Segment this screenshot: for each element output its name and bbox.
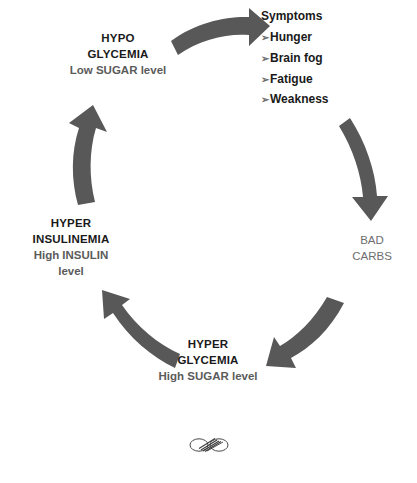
node-hypoglycemia: HYPO GLYCEMIA Low SUGAR level bbox=[38, 31, 198, 79]
node-hyperinsulinemia-line1: HYPER bbox=[6, 216, 136, 232]
node-hypoglycemia-line1: HYPO bbox=[38, 31, 198, 47]
bullet-arrow-icon: ➢ bbox=[261, 70, 269, 87]
node-hyperinsulinemia-line2: INSULINEMIA bbox=[6, 232, 136, 248]
arrow-hyperinsulinemia-to-hypoglycemia-icon bbox=[69, 105, 107, 205]
node-bad-carbs: BAD CARBS bbox=[333, 233, 411, 265]
node-hyperinsulinemia: HYPER INSULINEMIA High INSULIN level bbox=[6, 216, 136, 279]
node-hyperinsulinemia-sub2: level bbox=[6, 264, 136, 280]
symptoms-list: ➢ Hunger ➢ Brain fog ➢ Fatigue ➢ Weaknes… bbox=[261, 27, 411, 110]
node-bad-carbs-line1: BAD bbox=[333, 233, 411, 249]
symptom-label: Brain fog bbox=[270, 48, 323, 69]
symptom-label: Weakness bbox=[270, 89, 328, 110]
node-hyperglycemia: HYPER GLYCEMIA High SUGAR level bbox=[128, 337, 288, 385]
node-hyperinsulinemia-sub1: High INSULIN bbox=[6, 248, 136, 264]
list-item: ➢ Weakness bbox=[261, 89, 411, 110]
diagram-canvas: HYPO GLYCEMIA Low SUGAR level Symptoms ➢… bbox=[0, 0, 417, 483]
node-bad-carbs-line2: CARBS bbox=[333, 249, 411, 265]
ornament bbox=[0, 436, 417, 458]
node-hyperglycemia-sub: High SUGAR level bbox=[128, 369, 288, 385]
arrow-symptoms-to-bad-carbs-icon bbox=[339, 118, 388, 221]
infinity-ornament-icon bbox=[187, 436, 231, 454]
symptoms-heading: Symptoms bbox=[261, 7, 411, 25]
list-item: ➢ Brain fog bbox=[261, 48, 411, 69]
symptoms-block: Symptoms ➢ Hunger ➢ Brain fog ➢ Fatigue … bbox=[261, 7, 411, 110]
symptom-label: Hunger bbox=[270, 27, 312, 48]
list-item: ➢ Fatigue bbox=[261, 69, 411, 90]
bullet-arrow-icon: ➢ bbox=[261, 91, 269, 108]
node-hyperglycemia-line1: HYPER bbox=[128, 337, 288, 353]
symptom-label: Fatigue bbox=[270, 69, 313, 90]
node-hypoglycemia-line2: GLYCEMIA bbox=[38, 47, 198, 63]
list-item: ➢ Hunger bbox=[261, 27, 411, 48]
node-hyperglycemia-line2: GLYCEMIA bbox=[128, 353, 288, 369]
bullet-arrow-icon: ➢ bbox=[261, 29, 269, 46]
node-hypoglycemia-sub: Low SUGAR level bbox=[38, 63, 198, 79]
bullet-arrow-icon: ➢ bbox=[261, 49, 269, 66]
